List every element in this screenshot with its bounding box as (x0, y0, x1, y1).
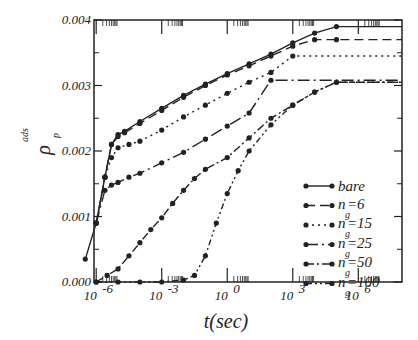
x-tick-label: 10 (149, 288, 163, 303)
svg-text:=100: =100 (347, 274, 380, 290)
svg-text:ρ: ρ (32, 145, 55, 156)
legend: bareng=6ng=15ng=25ng=50ng=100 (303, 178, 380, 298)
y-axis-title: ρ p ads (19, 128, 61, 156)
svg-text:=15: =15 (347, 215, 373, 231)
y-tick-label: 0.000 (62, 274, 92, 289)
svg-text:=25: =25 (347, 235, 373, 251)
y-tick-label: 0.002 (62, 143, 92, 158)
y-tick-label: 0.001 (62, 209, 91, 224)
y-axis-title-sup: ads (19, 128, 30, 142)
legend-item: bare (303, 178, 365, 194)
svg-text:0: 0 (233, 281, 240, 296)
svg-text:=6: =6 (347, 196, 365, 212)
y-tick-label: 0.003 (62, 78, 92, 93)
x-tick-label: 10 (280, 288, 294, 303)
x-tick-label: 10 (84, 288, 98, 303)
x-tick-label: 10 (215, 288, 229, 303)
x-axis-title: t(sec) (204, 310, 249, 333)
y-axis-title-sub: p (50, 133, 61, 139)
y-axis-title-main: ρ (32, 145, 55, 156)
svg-text:-6: -6 (102, 281, 113, 296)
svg-text:-3: -3 (168, 281, 179, 296)
adsorption-chart: 0.0000.0010.0020.0030.004 10-610-3100103… (0, 0, 418, 340)
legend-label: bare (338, 178, 365, 194)
y-tick-label: 0.004 (62, 12, 92, 27)
x-axis: 10-610-3100103106 (84, 20, 379, 303)
svg-text:=50: =50 (347, 254, 373, 270)
